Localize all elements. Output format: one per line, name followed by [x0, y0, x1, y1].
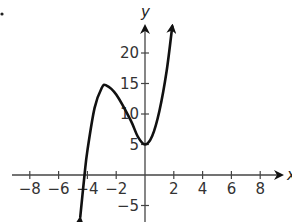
y-tick-label: −5 — [117, 197, 139, 215]
x-tick-label: 4 — [198, 180, 208, 198]
x-tick-label: 6 — [227, 180, 237, 198]
problem-marker-dot — [0, 12, 3, 15]
x-tick-label: −4 — [76, 180, 98, 198]
x-tick-label: −8 — [19, 180, 41, 198]
x-tick-label: 2 — [169, 180, 179, 198]
y-axis-label: y — [140, 3, 151, 21]
x-axis-label: x — [286, 166, 292, 184]
x-tick-label: 8 — [255, 180, 265, 198]
x-tick-label: −6 — [48, 180, 70, 198]
cubic-graph: −8−6−4−224682015105−5 x y — [0, 0, 292, 222]
y-tick-label: 15 — [120, 75, 139, 93]
x-tick-label: −2 — [105, 180, 127, 198]
y-tick-label: 20 — [120, 44, 139, 62]
ticks: −8−6−4−224682015105−5 — [19, 44, 265, 215]
